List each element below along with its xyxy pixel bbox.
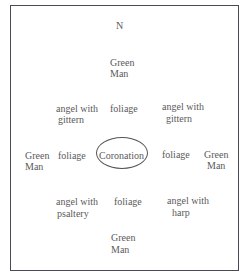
angel-harp-line1: angel with (167, 195, 209, 207)
bottom-green-man-line2: Man (111, 244, 129, 256)
foliage-left: foliage (58, 150, 86, 162)
angel-gittern-right-line2: gittern (166, 113, 192, 125)
angel-psaltery-line2: psaltery (57, 208, 89, 220)
foliage-right: foliage (162, 149, 190, 161)
angel-psaltery-line1: angel with (56, 196, 98, 208)
angel-harp-line2: harp (172, 207, 190, 219)
top-green-man-line2: Man (110, 68, 128, 80)
foliage-bottom: foliage (114, 196, 142, 208)
coronation-label: Coronation (99, 150, 144, 162)
angel-gittern-right-line1: angel with (162, 101, 204, 113)
angel-gittern-left-line2: gittern (58, 114, 84, 126)
green-man-left-line2: Man (25, 161, 43, 173)
north-label: N (116, 20, 123, 32)
foliage-top: foliage (110, 103, 138, 115)
green-man-right-line2: Man (207, 160, 225, 172)
bottom-green-man-line1: Green (111, 232, 135, 244)
